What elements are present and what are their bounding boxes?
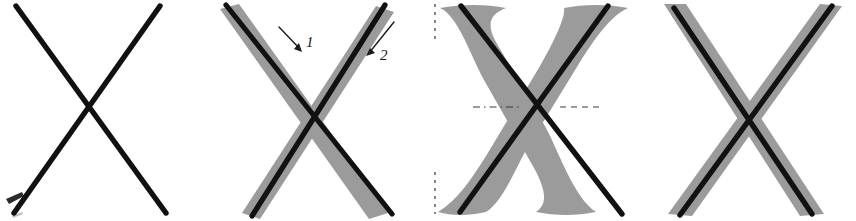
panel-1-plain-strokes (0, 0, 214, 221)
figure-root: X letterform stroke-fitting stages (0, 0, 856, 221)
panel-3-serif-glyph-with-guides (428, 0, 642, 221)
panel-1-black-strokes (14, 6, 166, 213)
panel-2-brush-with-arrows: 1 2 (214, 0, 428, 221)
annotation-arrow-1: 1 (279, 27, 314, 52)
panel-4-centered-strokes (642, 0, 856, 221)
arrow-1-label: 1 (306, 34, 314, 50)
arrow-2-label: 2 (380, 47, 388, 63)
